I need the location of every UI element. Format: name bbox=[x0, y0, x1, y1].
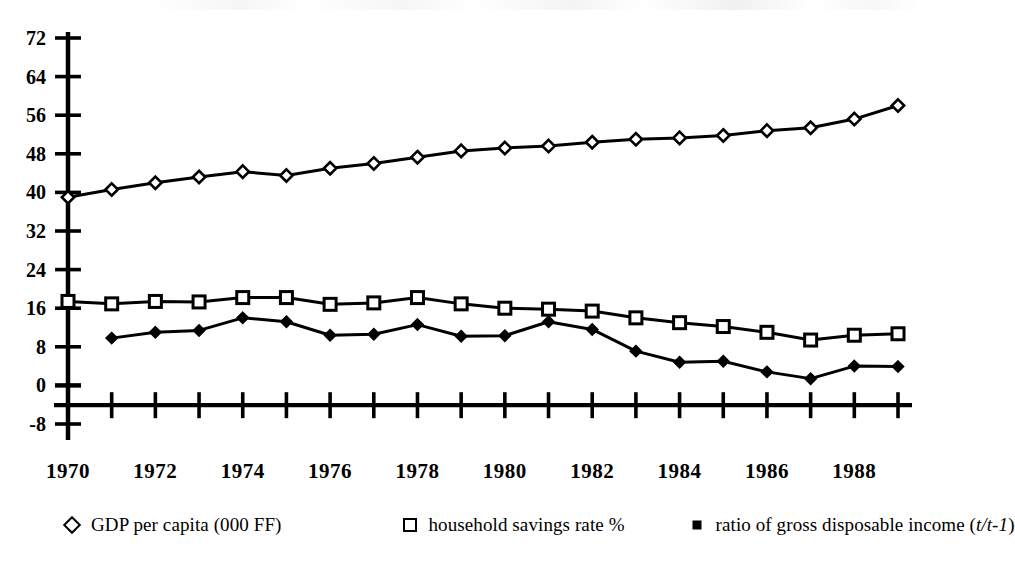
data-point-square-open bbox=[717, 321, 729, 333]
data-point-diamond-open bbox=[280, 169, 292, 181]
y-tick-label: 32 bbox=[26, 220, 46, 242]
data-point-diamond-open bbox=[586, 136, 598, 148]
data-point-diamond-open bbox=[630, 133, 642, 145]
data-point-square-filled bbox=[150, 327, 161, 338]
y-tick-label: 16 bbox=[26, 297, 46, 319]
x-tick-label: 1970 bbox=[46, 459, 90, 483]
x-tick-label: 1978 bbox=[395, 459, 439, 483]
y-tick-label: 8 bbox=[36, 336, 46, 358]
data-point-square-filled bbox=[892, 361, 903, 372]
data-point-square-open bbox=[543, 303, 555, 315]
y-tick-label: 64 bbox=[26, 66, 46, 88]
legend-label-ratio-tail: ) bbox=[1008, 514, 1014, 535]
y-tick-label: 48 bbox=[26, 143, 46, 165]
x-tick-labels: 1970197219741976197819801982198419861988 bbox=[46, 459, 876, 483]
data-point-diamond-open bbox=[761, 124, 773, 136]
x-tick-label: 1974 bbox=[221, 459, 265, 483]
data-point-diamond-open bbox=[105, 183, 117, 195]
legend-label-ratio-gross-disposable-income: ratio of gross disposable income (t/t-1) bbox=[716, 514, 1015, 536]
chart-legend: GDP per capita (000 FF) household saving… bbox=[0, 505, 920, 545]
data-point-diamond-open bbox=[542, 140, 554, 152]
data-point-diamond-open bbox=[193, 171, 205, 183]
data-point-square-open bbox=[586, 305, 598, 317]
diamond-open-icon bbox=[62, 515, 82, 535]
series-line bbox=[68, 106, 898, 198]
y-tick-label: 24 bbox=[26, 259, 46, 281]
series-household-savings-rate bbox=[62, 292, 904, 346]
x-tick-label: 1980 bbox=[483, 459, 527, 483]
data-point-square-filled bbox=[237, 312, 248, 323]
data-point-square-filled bbox=[587, 324, 598, 335]
data-point-square-open bbox=[455, 298, 467, 310]
data-point-square-open bbox=[237, 292, 249, 304]
square-open-icon bbox=[400, 515, 420, 535]
data-point-diamond-open bbox=[411, 151, 423, 163]
data-point-square-filled bbox=[499, 330, 510, 341]
data-point-square-open bbox=[674, 317, 686, 329]
y-axis: -8081624324048566472 bbox=[26, 27, 81, 440]
data-point-square-open bbox=[62, 295, 74, 307]
legend-item-household-savings-rate: household savings rate % bbox=[400, 514, 625, 536]
data-point-square-open bbox=[805, 334, 817, 346]
x-axis bbox=[54, 392, 912, 418]
data-point-square-filled bbox=[456, 331, 467, 342]
data-point-square-filled bbox=[805, 373, 816, 384]
data-point-diamond-open bbox=[324, 162, 336, 174]
data-point-square-open bbox=[761, 326, 773, 338]
y-tick-label: 40 bbox=[26, 181, 46, 203]
data-point-diamond-open bbox=[804, 122, 816, 134]
data-point-diamond-open bbox=[673, 132, 685, 144]
y-tick-label: 72 bbox=[26, 27, 46, 49]
legend-label-gdp-per-capita: GDP per capita (000 FF) bbox=[91, 514, 282, 536]
data-point-square-open bbox=[499, 302, 511, 314]
x-tick-label: 1972 bbox=[133, 459, 177, 483]
data-point-square-open bbox=[411, 292, 423, 304]
legend-item-gdp-per-capita: GDP per capita (000 FF) bbox=[62, 514, 282, 536]
data-point-diamond-open bbox=[237, 165, 249, 177]
legend-label-household-savings-rate: household savings rate % bbox=[429, 514, 625, 536]
data-point-square-open bbox=[324, 298, 336, 310]
data-point-square-open bbox=[193, 296, 205, 308]
data-point-square-filled bbox=[368, 329, 379, 340]
series-gdp-per-capita bbox=[62, 99, 904, 203]
data-point-square-filled bbox=[281, 316, 292, 327]
data-point-diamond-open bbox=[455, 145, 467, 157]
line-chart-plot: -8081624324048566472 1970197219741976197… bbox=[0, 0, 920, 500]
data-point-square-open bbox=[892, 328, 904, 340]
data-point-diamond-open bbox=[892, 99, 904, 111]
data-point-square-open bbox=[630, 312, 642, 324]
data-point-square-filled bbox=[674, 357, 685, 368]
x-tick-label: 1984 bbox=[658, 459, 702, 483]
data-point-square-filled bbox=[106, 333, 117, 344]
y-tick-label: 56 bbox=[26, 104, 46, 126]
series-line bbox=[112, 318, 898, 379]
data-point-square-open bbox=[149, 295, 161, 307]
square-filled-icon bbox=[687, 515, 707, 535]
data-point-square-filled bbox=[761, 366, 772, 377]
y-tick-label: -8 bbox=[29, 413, 46, 435]
data-point-square-open bbox=[368, 297, 380, 309]
data-series-group bbox=[62, 99, 904, 384]
legend-item-ratio-gross-disposable-income: ratio of gross disposable income (t/t-1) bbox=[687, 514, 1015, 536]
legend-label-ratio-plain: ratio of gross disposable income ( bbox=[716, 514, 976, 535]
data-point-square-filled bbox=[543, 316, 554, 327]
data-point-square-open bbox=[848, 329, 860, 341]
data-point-diamond-open bbox=[368, 157, 380, 169]
data-point-square-filled bbox=[412, 319, 423, 330]
data-point-diamond-open bbox=[717, 129, 729, 141]
data-point-square-filled bbox=[718, 356, 729, 367]
data-point-square-filled bbox=[193, 325, 204, 336]
data-point-square-open bbox=[280, 292, 292, 304]
x-tick-label: 1976 bbox=[308, 459, 352, 483]
data-point-diamond-open bbox=[848, 113, 860, 125]
data-point-square-filled bbox=[325, 330, 336, 341]
data-point-square-filled bbox=[849, 361, 860, 372]
data-point-square-open bbox=[106, 298, 118, 310]
data-point-diamond-open bbox=[499, 142, 511, 154]
y-tick-label: 0 bbox=[36, 374, 46, 396]
data-point-diamond-open bbox=[149, 177, 161, 189]
x-tick-label: 1982 bbox=[570, 459, 614, 483]
x-tick-label: 1988 bbox=[832, 459, 876, 483]
legend-label-ratio-italic: t/t-1 bbox=[976, 514, 1008, 535]
